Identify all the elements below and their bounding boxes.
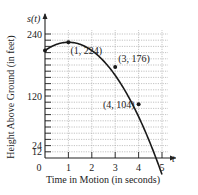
start-point <box>43 49 47 53</box>
y-tick-label: 240 <box>27 29 42 40</box>
grid-lines <box>45 30 168 158</box>
y-tick-label: 120 <box>27 91 42 102</box>
data-point-marker <box>113 65 117 69</box>
data-point-marker <box>66 40 70 44</box>
x-tick-label: 1 <box>66 162 71 173</box>
point-label: (3, 176) <box>118 53 150 65</box>
point-label: (4, 104) <box>103 99 135 111</box>
x-tick-label: 4 <box>136 162 141 173</box>
x-axis-symbol: t <box>172 153 175 164</box>
height-vs-time-chart: 0123451224120240 (1, 224)(3, 176)(4, 104… <box>0 0 198 195</box>
y-axis-arrow-icon <box>43 13 48 19</box>
axes <box>43 13 177 161</box>
data-point-marker <box>137 102 141 106</box>
annotated-points: (1, 224)(3, 176)(4, 104) <box>43 40 150 111</box>
x-axis-label: Time in Motion (in seconds) <box>46 174 160 186</box>
point-label: (1, 224) <box>70 45 102 57</box>
y-axis-label: Height Above Ground (in feet) <box>5 35 17 158</box>
y-tick-label: 24 <box>32 140 42 151</box>
x-tick-label: 2 <box>89 162 94 173</box>
y-axis-symbol: s(t) <box>27 13 41 25</box>
x-tick-label: 0 <box>37 162 42 173</box>
x-tick-label: 3 <box>113 162 118 173</box>
